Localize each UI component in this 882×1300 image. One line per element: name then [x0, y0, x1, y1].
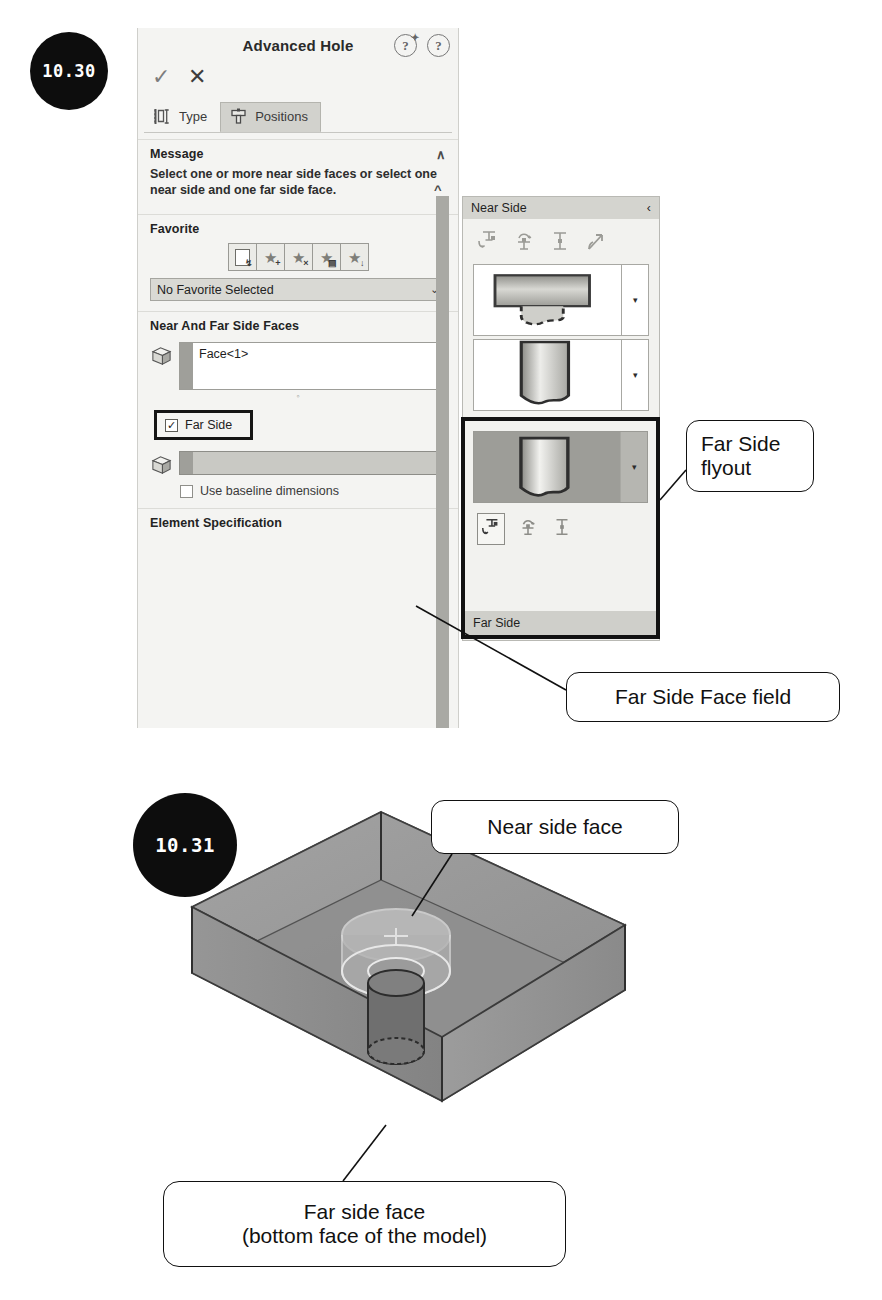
callout-far-side-face-field: Far Side Face field [566, 672, 840, 722]
callout-line: Far Side Face field [615, 685, 791, 709]
leader-lines [0, 0, 882, 1300]
callout-line: Near side face [487, 815, 622, 839]
leader-near-side-face [412, 854, 452, 916]
callout-near-side-face: Near side face [431, 800, 679, 854]
leader-far-side-face-field [416, 606, 566, 690]
figure-number-label: 10.31 [155, 834, 215, 856]
callout-line: Far side face [304, 1200, 425, 1224]
callout-far-side-face: Far side face (bottom face of the model) [163, 1181, 566, 1267]
figure-number-bubble-1031: 10.31 [133, 793, 237, 897]
callout-line: (bottom face of the model) [242, 1224, 487, 1248]
callout-line: flyout [701, 456, 751, 480]
figure-number-label: 10.30 [42, 61, 96, 81]
callout-far-side-flyout: Far Side flyout [686, 420, 814, 492]
leader-far-side-flyout [660, 470, 686, 500]
figure-number-bubble-1030: 10.30 [30, 32, 108, 110]
leader-far-side-face [343, 1125, 386, 1181]
callout-line: Far Side [701, 432, 780, 456]
